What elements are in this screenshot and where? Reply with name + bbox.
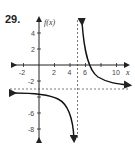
x-axis-label: x <box>125 68 130 77</box>
left-branch-curve <box>13 93 74 139</box>
y-tick-label: 2 <box>31 46 35 53</box>
right-branch-curve <box>82 22 128 85</box>
graph: -2 2 4 6 10 x 4 2 -2 -6 -8 f(x) <box>0 0 135 158</box>
y-tick-label: -2 <box>28 78 34 85</box>
x-tick-label: 10 <box>112 69 120 76</box>
y-axis-label: f(x) <box>44 18 55 27</box>
y-tick-label: -6 <box>28 110 34 117</box>
x-tick-label: 6 <box>83 69 87 76</box>
y-tick-label: -8 <box>28 126 34 133</box>
x-tick-label: 2 <box>52 69 56 76</box>
x-tick-label: -2 <box>19 69 25 76</box>
y-tick-label: 4 <box>31 30 35 37</box>
x-tick-label: 4 <box>68 69 72 76</box>
